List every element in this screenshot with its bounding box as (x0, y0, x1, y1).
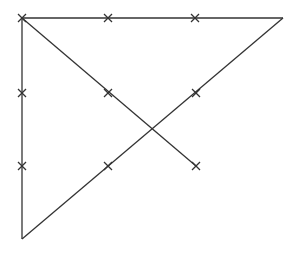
line-segments (22, 18, 283, 239)
geometry-diagram (0, 0, 298, 256)
